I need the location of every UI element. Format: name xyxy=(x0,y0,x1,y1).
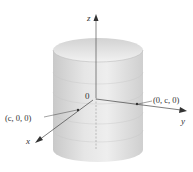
z-axis-label: z xyxy=(86,13,91,23)
x-arrow-icon xyxy=(35,136,43,143)
z-arrow-icon xyxy=(94,14,99,21)
point-c00-label: (c, 0, 0) xyxy=(5,113,32,123)
cylinder xyxy=(53,38,143,162)
point-0c0-label: (0, c, 0) xyxy=(153,95,180,105)
y-axis-label: y xyxy=(180,116,185,126)
y-arrow-icon xyxy=(179,107,187,113)
x-axis-label: x xyxy=(25,136,30,146)
cylinder-diagram: z x y 0 (c, 0, 0) (0, c, 0) xyxy=(0,0,193,172)
origin-label: 0 xyxy=(85,91,90,101)
